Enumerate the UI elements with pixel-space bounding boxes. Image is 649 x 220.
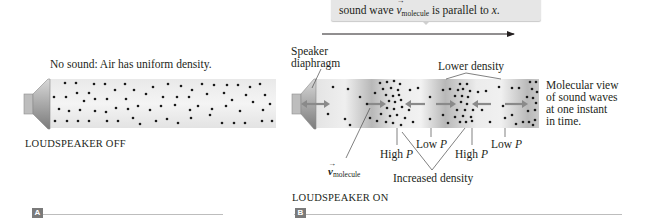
loudspeaker-a-icon — [24, 79, 50, 129]
panel-a-caption: LOUDSPEAKER OFF — [25, 137, 126, 150]
high-pressure-label-1: High P — [380, 148, 413, 161]
high-pressure-label-2: High P — [455, 148, 488, 161]
low-pressure-label-2: Low P — [491, 138, 522, 151]
panel-a-heading: No sound: Air has uniform density. — [50, 58, 212, 71]
panel-b-caption: LOUDSPEAKER ON — [292, 191, 388, 204]
speaker-diaphragm-label: Speaker diaphragm — [291, 45, 340, 69]
panel-a-divider — [34, 214, 223, 215]
molecular-view-note: Molecular view of sound waves at one ins… — [546, 79, 619, 127]
v-molecule-label: vmolecule — [328, 165, 360, 181]
panel-b-tag: B — [295, 208, 306, 218]
panel-a-tag: A — [32, 208, 43, 218]
low-pressure-label-1: Low P — [416, 138, 447, 151]
panel-b-divider — [294, 214, 622, 215]
increased-density-label: Increased density — [393, 172, 473, 185]
panel-a-tube — [50, 79, 276, 128]
lower-density-label: Lower density — [438, 60, 504, 73]
